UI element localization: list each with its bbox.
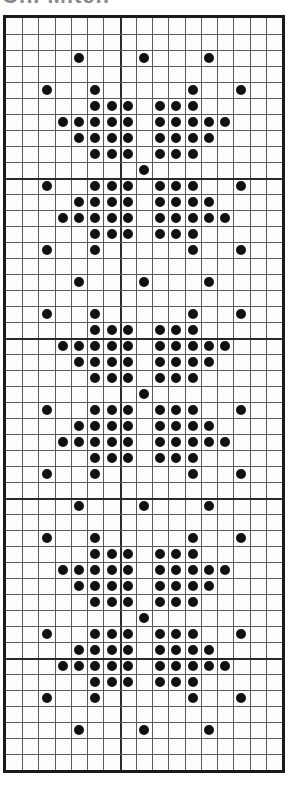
stitch-dot-icon <box>42 181 52 191</box>
stitch-dot-icon <box>74 581 84 591</box>
grid-row-line <box>6 402 282 403</box>
stitch-dot-icon <box>90 405 100 415</box>
stitch-dot-icon <box>171 101 181 111</box>
grid-row-line <box>6 514 282 515</box>
stitch-dot-icon <box>90 469 100 479</box>
grid-row-line <box>6 594 282 595</box>
stitch-dot-icon <box>188 213 198 223</box>
grid-row-line <box>6 610 282 611</box>
stitch-dot-icon <box>155 645 165 655</box>
stitch-dot-icon <box>123 565 133 575</box>
stitch-dot-icon <box>188 421 198 431</box>
stitch-dot-icon <box>90 373 100 383</box>
stitch-dot-icon <box>58 213 68 223</box>
stitch-dot-icon <box>220 117 230 127</box>
grid-row-line <box>6 130 282 131</box>
grid-row-line <box>6 50 282 51</box>
stitch-dot-icon <box>188 469 198 479</box>
stitch-dot-icon <box>139 725 149 735</box>
stitch-dot-icon <box>188 309 198 319</box>
stitch-dot-icon <box>188 549 198 559</box>
stitch-dot-icon <box>188 229 198 239</box>
stitch-dot-icon <box>74 725 84 735</box>
stitch-dot-icon <box>90 549 100 559</box>
stitch-dot-icon <box>188 133 198 143</box>
stitch-dot-icon <box>204 357 214 367</box>
stitch-dot-icon <box>204 341 214 351</box>
grid-row-line <box>6 194 282 195</box>
stitch-dot-icon <box>107 373 117 383</box>
stitch-dot-icon <box>107 581 117 591</box>
stitch-dot-icon <box>171 181 181 191</box>
stitch-dot-icon <box>58 437 68 447</box>
stitch-dot-icon <box>107 629 117 639</box>
stitch-dot-icon <box>90 421 100 431</box>
stitch-dot-icon <box>123 149 133 159</box>
stitch-dot-icon <box>107 437 117 447</box>
stitch-dot-icon <box>236 469 246 479</box>
stitch-dot-icon <box>188 597 198 607</box>
stitch-dot-icon <box>155 213 165 223</box>
stitch-dot-icon <box>204 565 214 575</box>
stitch-dot-icon <box>204 437 214 447</box>
stitch-dot-icon <box>171 373 181 383</box>
stitch-dot-icon <box>155 149 165 159</box>
grid-row-line <box>6 146 282 147</box>
stitch-dot-icon <box>188 101 198 111</box>
stitch-dot-icon <box>188 325 198 335</box>
stitch-dot-icon <box>155 421 165 431</box>
stitch-dot-icon <box>107 549 117 559</box>
stitch-dot-icon <box>42 629 52 639</box>
stitch-dot-icon <box>74 277 84 287</box>
stitch-dot-icon <box>107 341 117 351</box>
stitch-dot-icon <box>204 53 214 63</box>
stitch-dot-icon <box>90 629 100 639</box>
grid-row-line <box>6 226 282 227</box>
stitch-dot-icon <box>74 197 84 207</box>
grid-row-line <box>6 274 282 275</box>
stitch-dot-icon <box>123 181 133 191</box>
grid-row-line <box>6 66 282 67</box>
stitch-dot-icon <box>204 581 214 591</box>
grid-row-line <box>6 98 282 99</box>
stitch-dot-icon <box>155 629 165 639</box>
stitch-dot-icon <box>188 693 198 703</box>
grid-row-line <box>6 34 282 35</box>
grid-row-line <box>6 114 282 115</box>
stitch-dot-icon <box>171 213 181 223</box>
stitch-dot-icon <box>171 645 181 655</box>
stitch-dot-icon <box>204 661 214 671</box>
stitch-dot-icon <box>171 629 181 639</box>
stitch-dot-icon <box>139 389 149 399</box>
grid-row-line <box>6 642 282 643</box>
grid-row-line <box>6 738 282 739</box>
stitch-dot-icon <box>107 405 117 415</box>
stitch-dot-icon <box>236 405 246 415</box>
stitch-dot-icon <box>188 533 198 543</box>
stitch-dot-icon <box>236 533 246 543</box>
stitch-dot-icon <box>188 581 198 591</box>
stitch-dot-icon <box>139 277 149 287</box>
stitch-dot-icon <box>90 693 100 703</box>
stitch-dot-icon <box>74 341 84 351</box>
grid-row-line <box>6 546 282 547</box>
stitch-dot-icon <box>155 325 165 335</box>
stitch-dot-icon <box>123 661 133 671</box>
stitch-dot-icon <box>90 309 100 319</box>
stitch-dot-icon <box>107 229 117 239</box>
stitch-dot-icon <box>107 677 117 687</box>
stitch-dot-icon <box>155 405 165 415</box>
stitch-dot-icon <box>188 245 198 255</box>
stitch-dot-icon <box>204 133 214 143</box>
stitch-dot-icon <box>204 725 214 735</box>
grid-row-line <box>6 482 282 483</box>
stitch-dot-icon <box>107 101 117 111</box>
stitch-dot-icon <box>123 133 133 143</box>
stitch-dot-icon <box>58 565 68 575</box>
stitch-dot-icon <box>90 453 100 463</box>
stitch-dot-icon <box>155 197 165 207</box>
grid-row-line <box>6 450 282 451</box>
stitch-dot-icon <box>90 437 100 447</box>
stitch-dot-icon <box>74 661 84 671</box>
stitch-dot-icon <box>171 229 181 239</box>
